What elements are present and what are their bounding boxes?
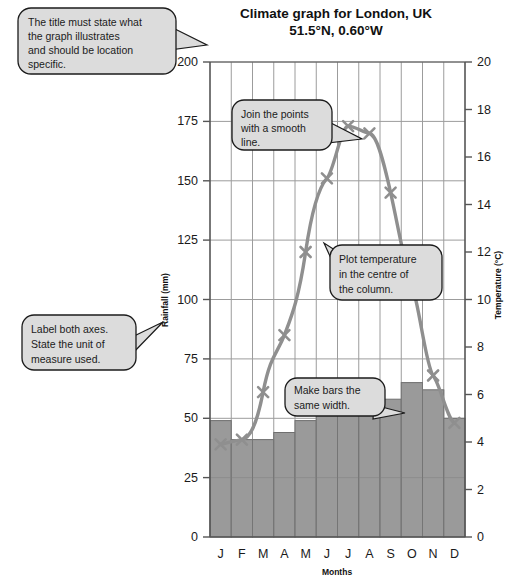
callout-title-line-2: the graph illustrates (28, 30, 120, 42)
x-axis-title: Months (322, 567, 352, 577)
month-label-may: M (300, 547, 310, 561)
y2tick-20: 20 (477, 55, 491, 69)
climate-graph-worksheet: Climate graph for London, UK 51.5°N, 0.6… (0, 0, 508, 580)
month-label-apr: A (280, 547, 289, 561)
callout-title-line-3: and should be location (28, 44, 133, 56)
callout-title-line-4: specific. (28, 58, 66, 70)
month-label-mar: M (258, 547, 268, 561)
y2tick-14: 14 (477, 198, 491, 212)
y2tick-8: 8 (477, 340, 484, 354)
callout-axes-line-3: measure used. (31, 353, 100, 365)
chart-subtitle: 51.5°N, 0.60°W (289, 23, 383, 38)
bar-jul (338, 399, 359, 537)
bar-jun (316, 399, 337, 537)
ytick-100: 100 (177, 293, 198, 307)
y2tick-18: 18 (477, 103, 491, 117)
bar-aug (359, 399, 380, 537)
ytick-75: 75 (184, 352, 198, 366)
month-label-oct: O (407, 547, 417, 561)
ytick-25: 25 (184, 471, 198, 485)
y2tick-4: 4 (477, 435, 484, 449)
bar-nov (423, 390, 444, 537)
ytick-200: 200 (177, 55, 198, 69)
month-label-nov: N (429, 547, 438, 561)
y2tick-10: 10 (477, 293, 491, 307)
bar-oct (401, 383, 422, 537)
callout-axes-line-2: State the unit of (31, 338, 105, 350)
month-label-jun: J (324, 547, 330, 561)
callout-plot-line-2: in the centre of (339, 268, 409, 280)
month-label-dec: D (450, 547, 459, 561)
bar-may (295, 421, 316, 537)
climate-graph-svg: Climate graph for London, UK 51.5°N, 0.6… (0, 0, 508, 580)
month-label-feb: F (238, 547, 246, 561)
callout-line-line-1: Join the points (241, 108, 309, 120)
callout-title-line-1: The title must state what (28, 16, 142, 28)
y2-axis-title: Temperature (°C) (493, 251, 503, 320)
callout-line-line-3: line. (241, 136, 260, 148)
ytick-150: 150 (177, 174, 198, 188)
ytick-125: 125 (177, 233, 198, 247)
y2tick-6: 6 (477, 388, 484, 402)
callout-axes-line-1: Label both axes. (31, 323, 108, 335)
bar-sep (380, 399, 401, 537)
callout-bars-line-2: same width. (294, 399, 350, 411)
callout-axes-advice: Label both axes. State the unit of measu… (22, 315, 163, 370)
month-label-aug: A (365, 547, 374, 561)
bar-apr (274, 433, 295, 538)
y2tick-12: 12 (477, 245, 491, 259)
callout-plot-line-3: the column. (339, 283, 393, 295)
x-axis-labels: J F M A M J J A S O N D (217, 547, 458, 561)
bar-mar (253, 440, 274, 537)
ytick-0: 0 (191, 530, 198, 544)
chart-title: Climate graph for London, UK (240, 6, 432, 21)
y2tick-16: 16 (477, 150, 491, 164)
left-axis-ticks: 200 175 150 125 100 75 50 25 0 (177, 55, 210, 544)
month-label-sep: S (386, 547, 394, 561)
bar-jan (210, 421, 231, 537)
callout-bars-line-1: Make bars the (294, 384, 361, 396)
right-axis-ticks: 20 18 16 14 12 10 8 6 4 2 0 (465, 55, 491, 544)
ytick-50: 50 (184, 411, 198, 425)
month-label-jul: J (345, 547, 351, 561)
month-label-jan: J (217, 547, 223, 561)
y2tick-0: 0 (477, 530, 484, 544)
callout-plot-line-1: Plot temperature (339, 253, 417, 265)
bar-feb (231, 440, 252, 537)
ytick-175: 175 (177, 114, 198, 128)
y2tick-2: 2 (477, 483, 484, 497)
y-axis-title: Rainfall (mm) (160, 273, 170, 327)
callout-plot-advice: Plot temperature in the centre of the co… (324, 243, 442, 300)
callout-line-line-2: with a smooth (240, 122, 306, 134)
